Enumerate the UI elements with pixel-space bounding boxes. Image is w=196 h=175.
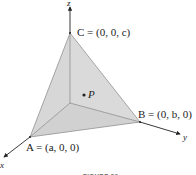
x-axis-label: x: [0, 160, 4, 170]
figure-caption: FIGURE 20: [83, 173, 119, 175]
vertex-b: [139, 121, 141, 123]
label-p: P: [87, 88, 95, 100]
tetrahedron-diagram: z y x C = (0, 0, c) B = (0, b, 0) A = (a…: [0, 0, 196, 175]
label-c: C = (0, 0, c): [77, 26, 131, 39]
face-abc: [30, 33, 140, 137]
vertex-a: [29, 136, 31, 138]
y-axis-label: y: [182, 132, 187, 142]
y-axis: [140, 122, 180, 134]
label-b: B = (0, b, 0): [138, 108, 192, 121]
vertex-c: [69, 32, 71, 34]
label-a: A = (a, 0, 0): [26, 141, 80, 154]
z-axis-label: z: [66, 0, 71, 8]
point-p: [82, 93, 85, 96]
